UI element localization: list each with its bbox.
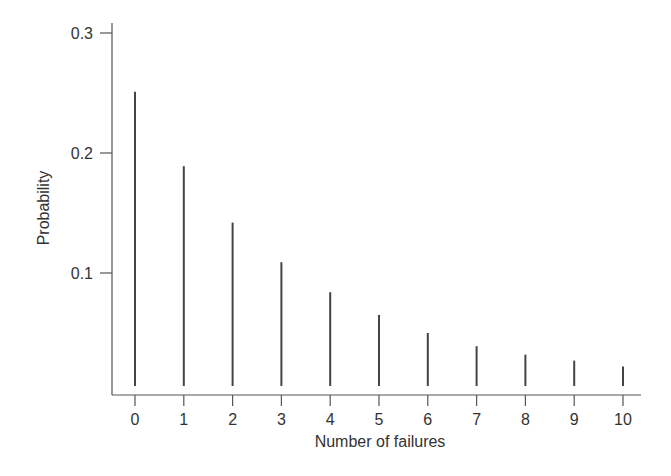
x-tick-label: 4 [326,411,335,428]
x-tick-label: 1 [179,411,188,428]
y-tick-label: 0.2 [71,145,93,162]
x-tick-label: 6 [423,411,432,428]
x-tick-label: 9 [570,411,579,428]
x-tick-label: 3 [277,411,286,428]
probability-stem-chart: 0.10.20.3 012345678910 Probability Numbe… [0,0,671,476]
x-tick-label: 10 [614,411,632,428]
y-axis-label: Probability [35,171,52,246]
y-axis: 0.10.20.3 [71,23,112,395]
x-tick-label: 5 [375,411,384,428]
y-tick-label: 0.3 [71,25,93,42]
x-tick-label: 2 [228,411,237,428]
data-stems [135,92,623,386]
x-axis: 012345678910 [112,395,641,428]
x-tick-label: 7 [472,411,481,428]
x-tick-label: 8 [521,411,530,428]
y-tick-label: 0.1 [71,265,93,282]
x-tick-label: 0 [131,411,140,428]
x-axis-label: Number of failures [315,433,446,450]
